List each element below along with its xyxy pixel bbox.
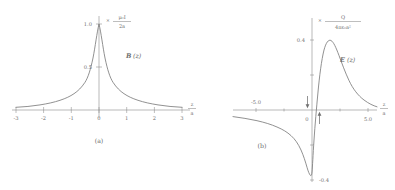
x-ticklabel-a-3: 0 <box>97 115 100 121</box>
x-ticklabel-a-5: 2 <box>153 115 156 121</box>
x-axis-label-b: z a <box>380 101 388 116</box>
figure-root: -3 -2 -1 0 1 2 3 1.0 0.5 × μ₀I 2a z a <box>0 0 395 190</box>
y-ticklabel-a-0: 1.0 <box>84 21 92 27</box>
curve-label-b: E (z) <box>339 56 356 64</box>
x-ticklabel-a-4: 1 <box>125 115 128 121</box>
x-axis-label-b-denominator: a <box>383 110 386 116</box>
x-axis-label-a: z a <box>188 101 196 116</box>
y-axis-label-b: × Q 4πε₀a² <box>318 14 361 30</box>
y-axis-label-a-denominator: 2a <box>119 23 125 29</box>
curve-label-a: B (z) <box>125 52 142 60</box>
y-axis-label-a-numerator: μ₀I <box>118 14 125 21</box>
x-ticklabel-a-0: -3 <box>13 115 18 121</box>
curve-label-a-arg: (z) <box>133 52 142 60</box>
x-axis-label-a-denominator: a <box>191 110 194 116</box>
y-axis-label-a: × μ₀I 2a <box>106 14 131 29</box>
marker-arrow-up <box>318 112 322 124</box>
x-axis-label-a-numerator: z <box>191 101 194 107</box>
x-ticklabel-b-2: 5.0 <box>364 116 372 122</box>
x-axis-label-b-numerator: z <box>383 101 386 107</box>
plot-b-svg: -5.0 0 5.0 0.4 -0.4 × Q 4πε₀a² z a <box>197 0 395 190</box>
y-ticklabel-b-1: -0.4 <box>319 177 330 183</box>
x-ticklabel-a-6: 3 <box>180 115 183 121</box>
y-ticklabel-b-0: 0.4 <box>297 37 306 43</box>
curve-e-of-z <box>233 40 377 175</box>
plot-a-svg: -3 -2 -1 0 1 2 3 1.0 0.5 × μ₀I 2a z a <box>0 0 198 190</box>
caption-b: (b) <box>258 142 267 149</box>
curve-label-b-symbol: E <box>339 56 345 64</box>
x-ticklabel-b-1: 0 <box>305 116 308 122</box>
x-ticklabel-b-0: -5.0 <box>251 99 261 105</box>
y-axis-label-b-times: × <box>318 18 322 23</box>
y-axis-label-b-denominator: 4πε₀a² <box>335 24 351 30</box>
x-ticklabel-a-2: -1 <box>69 115 74 121</box>
y-axis-label-b-numerator: Q <box>341 14 345 20</box>
marker-arrow-down <box>306 96 310 108</box>
curve-label-a-symbol: B <box>125 52 132 60</box>
x-ticklabel-a-1: -2 <box>41 115 46 121</box>
y-axis-label-a-times: × <box>106 18 110 23</box>
panel-b: -5.0 0 5.0 0.4 -0.4 × Q 4πε₀a² z a <box>197 0 395 190</box>
curve-label-b-arg: (z) <box>347 56 356 64</box>
caption-a: (a) <box>95 137 104 144</box>
panel-a: -3 -2 -1 0 1 2 3 1.0 0.5 × μ₀I 2a z a <box>0 0 198 190</box>
